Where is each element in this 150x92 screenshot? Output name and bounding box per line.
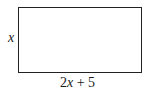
bottom-label-coefficient: 2 xyxy=(60,75,67,90)
rectangle xyxy=(18,7,142,73)
bottom-label: 2x + 5 xyxy=(60,76,95,90)
bottom-label-rest: + 5 xyxy=(73,75,95,90)
side-label: x xyxy=(8,31,14,45)
